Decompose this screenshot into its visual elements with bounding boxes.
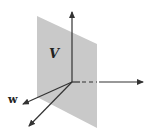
vector-label: w xyxy=(7,93,18,106)
subspace-diagram: V w xyxy=(0,0,152,138)
plane-v xyxy=(37,16,97,128)
